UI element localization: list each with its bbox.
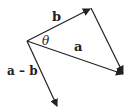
- label-a: a: [74, 40, 82, 53]
- label-theta: θ: [42, 35, 49, 47]
- vector-b-to-a: [91, 8, 123, 73]
- label-b: b: [52, 10, 61, 23]
- vector-arrows: [0, 0, 129, 112]
- vector-diagram: b θ a a – b: [0, 0, 129, 112]
- label-a-minus-b: a – b: [7, 65, 38, 77]
